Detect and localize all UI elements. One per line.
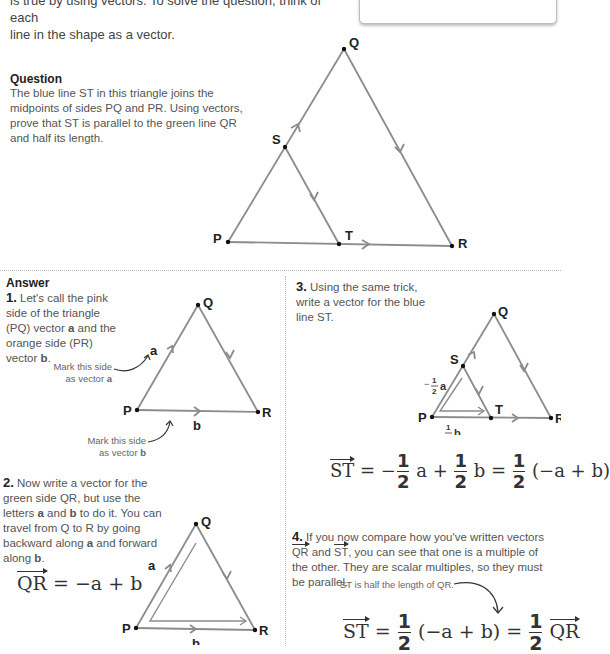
vector-qr-final: QR xyxy=(550,620,580,642)
step3-triangle-diagram: Q S P T R − 1 2 a 1 2 b xyxy=(380,295,561,435)
fraction-half-1: 12 xyxy=(397,452,410,491)
s3-half-a-label: a xyxy=(440,380,447,392)
s3-label-q: Q xyxy=(498,304,508,319)
vector-qr: QR xyxy=(17,572,47,594)
frac-den: 2 xyxy=(454,472,467,491)
step4-vector-st: ST xyxy=(334,545,348,560)
step2-triangle-diagram: Q P R a b xyxy=(100,505,285,645)
frac-num: 1 xyxy=(398,612,411,632)
fraction-half-4: 12 xyxy=(398,612,411,653)
label-p: P xyxy=(213,231,222,246)
note-b-bold: b xyxy=(140,447,146,458)
s3-label-s: S xyxy=(450,352,459,367)
s3-half-a-num: 1 xyxy=(432,376,437,385)
label-t: T xyxy=(345,228,353,243)
s2-label-q: Q xyxy=(201,514,211,529)
fraction-half-5: 12 xyxy=(529,612,542,653)
s2-label-p: P xyxy=(122,621,131,636)
s3-label-p: P xyxy=(418,410,427,425)
step4-text-2: and xyxy=(309,546,335,558)
s3-half-a-den: 2 xyxy=(432,387,437,396)
step4-text-1: If you now compare how you've written ve… xyxy=(306,531,544,543)
label-s: S xyxy=(272,132,281,147)
s1-label-p: P xyxy=(123,403,132,418)
step3-number: 3. xyxy=(296,279,307,294)
s1-label-a: a xyxy=(150,343,158,358)
frac-den: 2 xyxy=(513,472,526,491)
s3-t2: b = xyxy=(468,460,512,481)
label-q: Q xyxy=(349,35,359,50)
s3-t1: a + xyxy=(410,460,453,481)
question-triangle-diagram: Q S P T R xyxy=(0,0,561,270)
s2-label-a: a xyxy=(148,558,156,573)
s3-label-r: R xyxy=(555,411,561,426)
s3-label-t: T xyxy=(495,402,503,417)
vertical-divider xyxy=(285,276,286,646)
s1-label-q: Q xyxy=(203,295,213,310)
s3-t3: (−a + b) xyxy=(526,460,610,481)
label-r: R xyxy=(458,236,468,251)
s4-mid: (−a + b) = xyxy=(412,620,528,642)
fraction-half-2: 12 xyxy=(454,452,467,491)
fraction-half-3: 12 xyxy=(513,452,526,491)
s4-eq1: = xyxy=(369,620,397,642)
step4-number: 4. xyxy=(292,529,303,544)
step2-text-2: and xyxy=(44,507,70,519)
frac-num: 1 xyxy=(529,612,542,632)
step3-formula: ST = −12 a + 12 b = 12 (−a + b) xyxy=(330,452,610,491)
s3-half-b-num: 1 xyxy=(446,423,451,432)
step2-number: 2. xyxy=(3,475,14,490)
step1-triangle-diagram: Q P R a b xyxy=(0,270,285,445)
step2-text-5: . xyxy=(41,552,44,564)
s2-label-b: b xyxy=(192,636,200,645)
frac-den: 2 xyxy=(397,472,410,491)
note-b-line2: as vector xyxy=(99,447,140,458)
step4-formula: ST = 12 (−a + b) = 12 QR xyxy=(343,612,579,653)
frac-num: 1 xyxy=(454,452,467,471)
frac-num: 1 xyxy=(513,452,526,471)
frac-den: 2 xyxy=(529,633,542,653)
s3-half-b-label: b xyxy=(454,427,461,435)
s2-label-r: R xyxy=(259,623,269,638)
frac-num: 1 xyxy=(397,452,410,471)
frac-den: 2 xyxy=(398,633,411,653)
step2-bold-b: b xyxy=(70,507,77,519)
s3-minus: − xyxy=(424,379,429,389)
s3-half-b-den: 2 xyxy=(446,434,451,435)
step4-vector-qr: QR xyxy=(292,545,309,560)
vector-st-final: ST xyxy=(343,620,369,642)
vector-st: ST xyxy=(330,460,354,481)
s3-eq1: = − xyxy=(354,460,396,481)
s1-label-b: b xyxy=(193,418,201,433)
s1-label-r: R xyxy=(262,405,272,420)
note-half-length: ST is half the length of QR. xyxy=(340,579,465,591)
